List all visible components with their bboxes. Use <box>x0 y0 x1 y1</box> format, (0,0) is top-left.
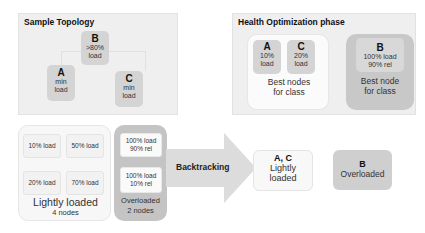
node-detail: load <box>81 52 109 60</box>
overloaded-group: 100% load 90% rel 100% load 10% rel Over… <box>114 125 167 221</box>
node-detail: load <box>115 92 143 100</box>
node-detail: load <box>287 60 315 68</box>
rel-line: 10% rel <box>130 180 152 188</box>
connector-line <box>61 51 62 65</box>
node-load-card: 100% load 10% rel <box>120 167 162 193</box>
result-line: loaded <box>254 173 312 183</box>
node-detail: 20% <box>287 52 315 60</box>
overloaded-caption: Overloaded <box>114 196 167 205</box>
health-optimization-title: Health Optimization phase <box>238 17 345 27</box>
node-label: C <box>287 41 315 52</box>
best-nodes-caption: Best nodes for class <box>248 77 330 97</box>
node-detail: 90% rel <box>356 61 404 69</box>
node-detail: 10% <box>253 52 281 60</box>
node-detail: min <box>115 84 143 92</box>
topology-node-a: A min load <box>47 65 75 101</box>
node-label: B <box>356 42 404 53</box>
node-detail: load <box>47 86 75 94</box>
best-node-caption: Best node for class <box>346 76 414 96</box>
load-line: 100% load <box>126 137 157 145</box>
node-label: A <box>253 41 281 52</box>
backtracking-arrow: Backtracking <box>166 133 256 203</box>
result-overloaded: B Overloaded <box>333 150 392 190</box>
node-load-card: 20% load <box>23 171 61 195</box>
topology-node-c: C min load <box>115 71 143 107</box>
result-title: B <box>333 159 392 169</box>
best-light-nodes-group: A 10% load C 20% load Best nodes for cla… <box>247 34 329 110</box>
connector-line <box>145 51 146 71</box>
lightly-loaded-group: 10% load 50% load 20% load 70% load Ligh… <box>18 125 111 221</box>
lightly-loaded-caption: Lightly loaded <box>19 196 112 208</box>
best-heavy-node-group: B 100% load 90% rel Best node for class <box>346 34 414 110</box>
caption-line: Best node <box>346 76 414 86</box>
best-node-c: C 20% load <box>287 40 315 74</box>
load-line: 100% load <box>126 172 157 180</box>
node-label: B <box>81 33 109 44</box>
result-line: Overloaded <box>333 169 392 179</box>
rel-line: 90% rel <box>130 145 152 153</box>
result-line: Lightly <box>254 163 312 173</box>
node-detail: 100% load <box>356 53 404 61</box>
best-node-b: B 100% load 90% rel <box>356 38 404 72</box>
sample-topology-panel: Sample Topology B >80% load A min load C… <box>18 13 178 115</box>
result-title: A, C <box>254 153 312 163</box>
node-label: A <box>47 67 75 78</box>
caption-line: Best nodes <box>248 77 330 87</box>
node-load-card: 10% load <box>23 134 61 158</box>
topology-node-b: B >80% load <box>81 31 109 65</box>
node-load-card: 70% load <box>66 171 104 195</box>
node-detail: load <box>253 60 281 68</box>
backtracking-label: Backtracking <box>176 162 229 172</box>
sample-topology-title: Sample Topology <box>24 17 94 27</box>
node-detail: >80% <box>81 44 109 52</box>
overloaded-count: 2 nodes <box>114 206 167 215</box>
node-load-card: 50% load <box>66 134 104 158</box>
result-lightly-loaded: A, C Lightly loaded <box>253 150 313 191</box>
node-detail: min <box>47 78 75 86</box>
lightly-loaded-count: 4 nodes <box>19 208 112 217</box>
caption-line: for class <box>248 87 330 97</box>
node-label: C <box>115 73 143 84</box>
node-load-card: 100% load 90% rel <box>120 133 162 157</box>
caption-line: for class <box>346 86 414 96</box>
health-optimization-panel: Health Optimization phase A 10% load C 2… <box>232 13 416 115</box>
best-node-a: A 10% load <box>253 40 281 74</box>
